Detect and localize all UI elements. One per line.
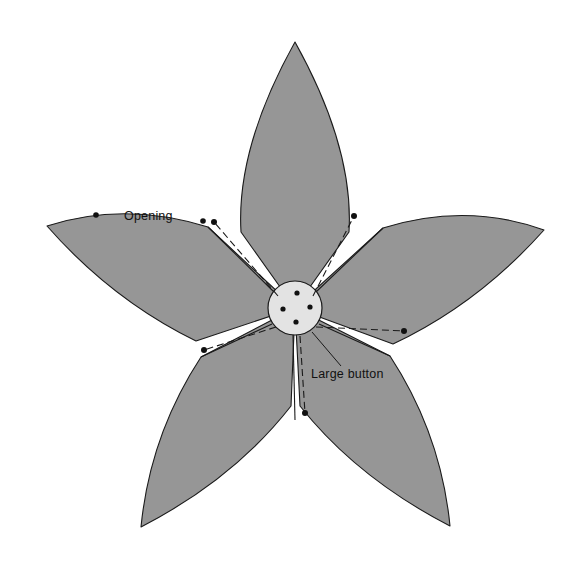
arrow-tip-dot-arrow-upper-right bbox=[351, 213, 357, 219]
button-hole-1-icon bbox=[294, 290, 299, 295]
button-hole-4-icon bbox=[293, 319, 298, 324]
flower-diagram: OpeningLarge button bbox=[0, 0, 588, 569]
annotation-label-large-button: Large button bbox=[311, 367, 384, 381]
opening-dot-right bbox=[200, 218, 206, 224]
large-button-circle[interactable] bbox=[268, 281, 322, 335]
annotation-label-opening: Opening bbox=[124, 209, 173, 223]
button-hole-2-icon bbox=[280, 306, 285, 311]
arrow-tip-dot-arrow-lower-right bbox=[401, 328, 407, 334]
opening-dot-left bbox=[93, 212, 99, 218]
arrow-tip-dot-arrow-bottom bbox=[302, 410, 308, 416]
button-hole-3-icon bbox=[307, 304, 312, 309]
arrow-tip-dot-arrow-lower-left bbox=[201, 347, 207, 353]
large-button-hub-group bbox=[268, 281, 322, 335]
arrow-tip-dot-arrow-upper-left bbox=[211, 219, 217, 225]
flower-svg-canvas: OpeningLarge button bbox=[0, 0, 588, 569]
